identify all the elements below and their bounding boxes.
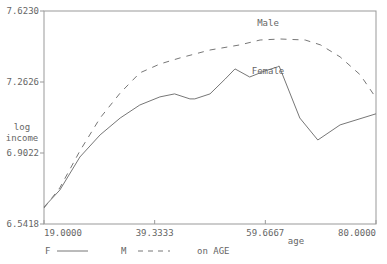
plot-frame [44, 11, 376, 224]
legend-key-female: F [45, 246, 50, 256]
y-axis-label-line2: income [6, 133, 39, 143]
y-tick-label: 7.2626 [6, 77, 39, 87]
x-tick-label: 19.0000 [44, 228, 82, 238]
legend-suffix: on AGE [197, 246, 230, 256]
x-axis-label: age [288, 236, 304, 246]
y-tick-label: 6.9022 [6, 148, 39, 158]
annotation-male: Male [257, 18, 279, 28]
x-tick-label: 80.0000 [338, 228, 376, 238]
x-tick-label: 59.6667 [246, 228, 284, 238]
chart: 6.54186.90227.26267.6230 19.000039.33335… [0, 0, 387, 264]
series-line-female [44, 66, 376, 207]
legend-key-male: M [121, 246, 127, 256]
y-tick-label: 7.6230 [6, 6, 39, 16]
annotation-female: Female [252, 66, 285, 76]
x-tick-label: 39.3333 [136, 228, 174, 238]
series-line-male [44, 39, 376, 208]
legend: F M on AGE [45, 246, 230, 256]
y-tick-label: 6.5418 [6, 219, 39, 229]
y-axis-label-line1: log [14, 122, 30, 132]
